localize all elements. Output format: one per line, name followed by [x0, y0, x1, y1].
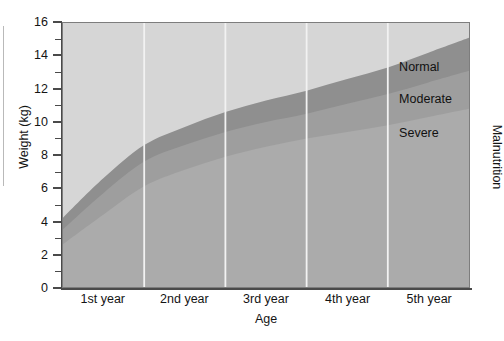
band-label-severe: Severe	[399, 126, 439, 140]
y-tick-minor-13	[55, 72, 61, 73]
y-tick-label-14: 14	[0, 49, 48, 62]
x-tick-label-4: 4th year	[307, 292, 389, 306]
y-tick-label-0: 0	[0, 282, 48, 295]
y-tick-label-10: 10	[0, 116, 48, 129]
right-axis-title: Malnutrition	[490, 92, 504, 222]
y-axis-title: Weight (kg)	[17, 77, 31, 197]
y-tick-minor-9	[55, 138, 61, 139]
year-gridline	[387, 23, 389, 287]
y-tick-major-0	[53, 287, 61, 289]
x-tick-label-5: 5th year	[388, 292, 470, 306]
chart-figure: Weight (kg) 0246810121416 1st year2nd ye…	[0, 0, 504, 341]
y-tick-major-8	[53, 154, 61, 156]
y-tick-minor-15	[55, 39, 61, 40]
y-tick-label-12: 12	[0, 83, 48, 96]
year-gridline	[225, 23, 227, 287]
x-tick-label-1: 1st year	[62, 292, 144, 306]
y-tick-major-10	[53, 121, 61, 123]
y-tick-label-2: 2	[0, 249, 48, 262]
y-tick-minor-11	[55, 105, 61, 106]
y-tick-minor-1	[55, 271, 61, 272]
band-label-moderate: Moderate	[399, 92, 452, 106]
year-gridline	[143, 23, 145, 287]
y-tick-major-6	[53, 187, 61, 189]
y-tick-minor-5	[55, 205, 61, 206]
y-tick-label-16: 16	[0, 16, 48, 29]
band-label-normal: Normal	[399, 60, 439, 74]
y-tick-minor-7	[55, 172, 61, 173]
y-tick-major-16	[53, 21, 61, 23]
y-tick-minor-3	[55, 238, 61, 239]
x-tick-label-3: 3rd year	[225, 292, 307, 306]
y-tick-major-2	[53, 254, 61, 256]
y-tick-label-8: 8	[0, 149, 48, 162]
y-tick-major-12	[53, 88, 61, 90]
y-tick-major-4	[53, 221, 61, 223]
y-tick-label-4: 4	[0, 216, 48, 229]
x-axis-title: Age	[62, 312, 470, 326]
year-gridline	[306, 23, 308, 287]
x-tick-label-2: 2nd year	[144, 292, 226, 306]
y-tick-major-14	[53, 54, 61, 56]
y-tick-label-6: 6	[0, 182, 48, 195]
x-axis-line	[61, 288, 472, 290]
